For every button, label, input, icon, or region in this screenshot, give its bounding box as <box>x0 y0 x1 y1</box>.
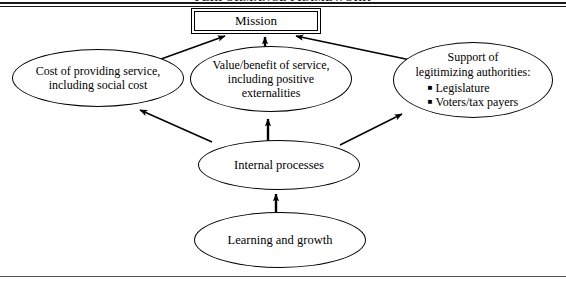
node-cost-of-providing-service[interactable]: Cost of providing service, including soc… <box>12 49 184 107</box>
edge-internal-to-support <box>340 114 402 145</box>
node-support-text: Support of legitimizing authorities: ■Le… <box>394 50 552 109</box>
node-support-bullet-list: ■Legislature ■Voters/tax payers <box>428 81 519 110</box>
page-rule-top-thick <box>0 2 566 4</box>
node-mission[interactable]: Mission <box>191 8 321 34</box>
page-rule-top-thin <box>0 6 566 7</box>
clipped-page-header: PERFORMANCE FRAMEWORK <box>0 0 566 1</box>
node-learning-label: Learning and growth <box>222 233 339 248</box>
node-cost-text: Cost of providing service, including soc… <box>30 64 167 92</box>
node-support-line1: Support of <box>448 50 499 64</box>
square-bullet-icon: ■ <box>428 83 433 92</box>
node-support-bullet-0: Legislature <box>436 81 490 95</box>
node-value-line1: Value/benefit of service, <box>213 58 330 72</box>
node-support-of-legitimizing-authorities[interactable]: Support of legitimizing authorities: ■Le… <box>393 42 553 118</box>
node-learning-and-growth[interactable]: Learning and growth <box>194 212 366 268</box>
diagram-figure: PERFORMANCE FRAMEWORK Mission Cost <box>0 0 566 282</box>
node-value-line3: externalities <box>242 86 301 100</box>
node-internal-processes[interactable]: Internal processes <box>198 140 360 190</box>
edge-internal-to-cost <box>140 110 212 142</box>
node-value-line2: including positive <box>228 72 314 86</box>
node-cost-line1: Cost of providing service, <box>36 64 161 78</box>
square-bullet-icon: ■ <box>428 97 433 106</box>
node-cost-line2: including social cost <box>49 78 148 92</box>
list-item: ■Legislature <box>428 81 519 95</box>
node-value-text: Value/benefit of service, including posi… <box>207 58 336 100</box>
node-value-benefit-of-service[interactable]: Value/benefit of service, including posi… <box>190 46 352 112</box>
node-support-line2: legitimizing authorities: <box>416 65 531 79</box>
list-item: ■Voters/tax payers <box>428 95 519 109</box>
node-mission-label: Mission <box>229 13 283 28</box>
node-mission-inner-border: Mission <box>194 11 318 31</box>
page-rule-bottom <box>0 276 566 277</box>
node-internal-label: Internal processes <box>228 158 330 173</box>
node-support-bullet-1: Voters/tax payers <box>436 95 519 109</box>
